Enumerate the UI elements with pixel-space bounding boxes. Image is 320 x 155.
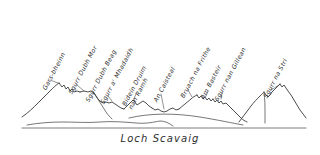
ridge-an-caisteal [152, 108, 179, 112]
ridge-sgurr-na-stri-left [239, 92, 264, 122]
ridge-right-descent [229, 106, 247, 122]
loch-shoreline [27, 121, 173, 126]
loch-caption: Loch Scavaig [0, 133, 320, 144]
ridge-sgurr-na-stri-summit [280, 84, 306, 118]
panorama-sketch: Gars-bheinn Sgurr Dubh Mor Sgurr Dubh Be… [0, 0, 320, 155]
leader-line-sgurr-dubh-mor [77, 85, 84, 91]
